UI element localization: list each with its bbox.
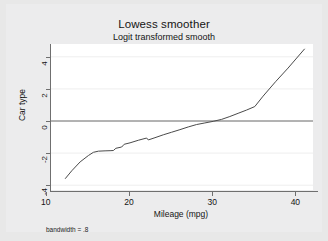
- x-axis-title: Mileage (mpg): [50, 209, 312, 219]
- y-tick-label-wrap: 0: [32, 116, 44, 126]
- y-axis-title: Car type: [17, 75, 27, 135]
- plot-area: [50, 44, 313, 190]
- y-tick-label-wrap: -4: [32, 180, 44, 190]
- x-tick-label: 20: [118, 197, 140, 207]
- y-axis-line: [50, 44, 51, 191]
- y-tick-label-wrap: -2: [32, 148, 44, 158]
- chart-title: Lowess smoother: [6, 18, 322, 30]
- x-tick-label: 40: [284, 197, 306, 207]
- y-tick-label: 0: [40, 122, 49, 134]
- bandwidth-note: bandwidth = .8: [46, 226, 88, 233]
- x-tick-mark: [129, 192, 130, 196]
- y-tick-label: 2: [40, 89, 49, 101]
- chart-subtitle: Logit transformed smooth: [6, 32, 322, 42]
- x-tick-label: 10: [35, 197, 57, 207]
- lowess-smooth-line: [65, 49, 305, 179]
- lowess-curve-svg: [51, 44, 313, 190]
- x-axis-line: [50, 191, 318, 192]
- y-tick-label: -2: [40, 154, 49, 166]
- x-tick-mark: [212, 192, 213, 196]
- x-tick-mark: [46, 192, 47, 196]
- y-tick-label-wrap: 2: [32, 84, 44, 94]
- graph-region: Lowess smoother Logit transformed smooth…: [6, 4, 322, 232]
- x-tick-mark: [295, 192, 296, 196]
- y-tick-label: 4: [40, 57, 49, 69]
- y-tick-label-wrap: 4: [32, 52, 44, 62]
- y-tick-label: -4: [40, 186, 49, 198]
- x-tick-label: 30: [201, 197, 223, 207]
- chart-screenshot: Lowess smoother Logit transformed smooth…: [0, 0, 328, 241]
